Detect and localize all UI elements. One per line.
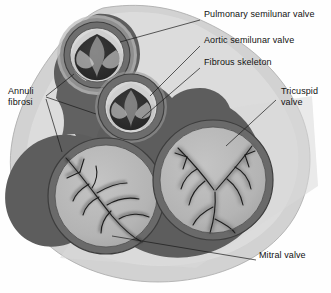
label-tricuspid-valve-line1: Tricuspid [281,86,318,96]
label-annuli-fibrosi-line1: Annuli [8,86,34,96]
label-tricuspid-valve: Tricuspid valve [281,86,325,107]
label-mitral-valve: Mitral valve [259,250,306,261]
aortic-semilunar-valve [95,71,167,143]
label-tricuspid-valve-line2: valve [281,97,303,107]
label-fibrous-skeleton: Fibrous skeleton [204,57,272,68]
tricuspid-valve [153,120,273,240]
label-pulmonary-semilunar-valve: Pulmonary semilunar valve [204,9,315,20]
figure-canvas: Pulmonary semilunar valve Aortic semilun… [0,0,331,293]
label-annuli-fibrosi-line2: fibrosi [8,97,33,107]
label-aortic-semilunar-valve: Aortic semilunar valve [204,35,294,46]
mitral-valve [48,138,164,254]
label-annuli-fibrosi: Annuli fibrosi [8,86,52,107]
